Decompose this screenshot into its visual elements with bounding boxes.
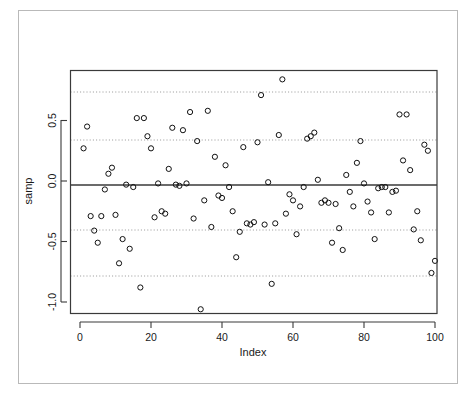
data-point: [106, 171, 111, 176]
data-point: [354, 160, 359, 165]
x-tick-marks: [80, 322, 435, 328]
data-point: [315, 177, 320, 182]
data-point: [166, 166, 171, 171]
data-point: [202, 198, 207, 203]
data-point: [152, 215, 157, 220]
data-point: [408, 168, 413, 173]
scatter-plot-figure: 020406080100 Index 0.50.0-0.5-1.0 samp: [0, 0, 476, 394]
data-point: [262, 222, 267, 227]
data-point: [294, 232, 299, 237]
data-point: [180, 128, 185, 133]
data-point: [329, 240, 334, 245]
data-point: [92, 228, 97, 233]
data-point: [415, 209, 420, 214]
data-point: [344, 172, 349, 177]
data-point: [223, 163, 228, 168]
data-point: [273, 221, 278, 226]
x-tick-label: 40: [216, 331, 228, 343]
data-point: [411, 227, 416, 232]
data-point: [81, 146, 86, 151]
data-point: [88, 213, 93, 218]
figure-page: 020406080100 Index 0.50.0-0.5-1.0 samp: [0, 0, 476, 394]
data-point: [138, 285, 143, 290]
data-point: [298, 204, 303, 209]
data-point: [127, 246, 132, 251]
y-tick-marks: [61, 121, 67, 303]
data-point: [102, 187, 107, 192]
data-point-group: [81, 77, 438, 312]
data-point: [283, 211, 288, 216]
x-tick-label: 80: [358, 331, 370, 343]
data-point: [386, 210, 391, 215]
data-point: [99, 213, 104, 218]
data-point: [269, 281, 274, 286]
data-point: [209, 224, 214, 229]
y-tick-label: -1.0: [46, 293, 58, 311]
data-point: [191, 216, 196, 221]
x-axis: 020406080100 Index: [77, 322, 444, 358]
data-point: [422, 142, 427, 147]
data-point: [258, 92, 263, 97]
data-point: [340, 247, 345, 252]
data-point: [241, 145, 246, 150]
y-tick-labels: 0.50.0-0.5-1.0: [46, 113, 58, 311]
y-tick-label: -0.5: [46, 232, 58, 250]
data-point: [365, 199, 370, 204]
data-point: [312, 130, 317, 135]
data-point: [234, 255, 239, 260]
data-point: [358, 138, 363, 143]
y-tick-label: 0.0: [46, 174, 58, 189]
data-point: [116, 261, 121, 266]
y-tick-label: 0.5: [46, 113, 58, 128]
data-point: [333, 201, 338, 206]
x-tick-label: 0: [77, 331, 83, 343]
data-point: [170, 125, 175, 130]
data-point: [372, 236, 377, 241]
data-point: [351, 204, 356, 209]
x-tick-label: 100: [426, 331, 444, 343]
data-point: [85, 124, 90, 129]
data-point: [95, 240, 100, 245]
data-point: [337, 226, 342, 231]
data-point: [404, 112, 409, 117]
data-point: [290, 198, 295, 203]
data-point: [347, 189, 352, 194]
data-point: [230, 209, 235, 214]
data-point: [429, 270, 434, 275]
data-point: [255, 140, 260, 145]
data-point: [134, 115, 139, 120]
data-point: [280, 77, 285, 82]
data-point: [418, 238, 423, 243]
data-point: [212, 154, 217, 159]
x-tick-labels: 020406080100: [77, 331, 444, 343]
plot-frame: [71, 71, 438, 314]
x-tick-label: 60: [287, 331, 299, 343]
data-point: [287, 192, 292, 197]
data-point: [400, 158, 405, 163]
data-point: [266, 180, 271, 185]
x-axis-title: Index: [240, 346, 267, 358]
x-tick-label: 20: [145, 331, 157, 343]
data-point: [109, 165, 114, 170]
data-point: [141, 115, 146, 120]
y-axis: 0.50.0-0.5-1.0 samp: [22, 113, 67, 311]
data-point: [369, 210, 374, 215]
data-point: [397, 112, 402, 117]
data-point: [145, 134, 150, 139]
data-point: [276, 132, 281, 137]
data-point: [187, 109, 192, 114]
data-point: [198, 307, 203, 312]
y-axis-title: samp: [22, 178, 34, 205]
data-point: [237, 229, 242, 234]
data-point: [113, 212, 118, 217]
data-point: [148, 146, 153, 151]
data-point: [205, 108, 210, 113]
data-point: [425, 148, 430, 153]
data-point: [195, 138, 200, 143]
data-point: [120, 236, 125, 241]
